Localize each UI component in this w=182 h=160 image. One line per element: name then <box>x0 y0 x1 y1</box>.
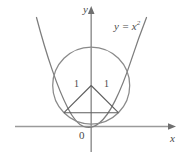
radius-right-segment <box>91 86 118 113</box>
x-axis-arrow-icon <box>168 123 176 130</box>
radius-left-segment <box>64 86 91 113</box>
y-axis-label: y <box>83 4 88 15</box>
radius-left-label: 1 <box>74 79 79 89</box>
curve-equation-base: y = x <box>114 20 137 32</box>
curve-equation-label: y = x2 <box>114 20 140 32</box>
x-axis-label: x <box>170 133 175 144</box>
radius-right-label: 1 <box>104 79 109 89</box>
figure-canvas <box>0 0 182 160</box>
math-figure: y x 0 y = x2 1 1 <box>0 0 182 160</box>
origin-label: 0 <box>79 130 85 141</box>
y-axis-arrow-icon <box>88 6 95 14</box>
curve-equation-exponent: 2 <box>137 19 141 27</box>
